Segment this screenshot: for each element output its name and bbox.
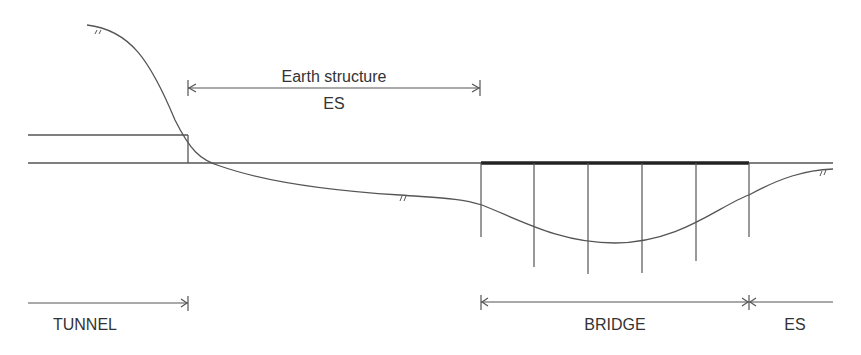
bridge-piers bbox=[481, 163, 749, 274]
tunnel-label: TUNNEL bbox=[53, 316, 117, 333]
road-profile-diagram: Earth structure ES TUNNEL BRIDGE ES bbox=[0, 0, 861, 355]
bridge-dimension bbox=[481, 295, 749, 310]
ground-hatch-icon bbox=[95, 30, 826, 201]
es-right-label: ES bbox=[784, 316, 805, 333]
earth-structure-title: Earth structure bbox=[282, 68, 387, 85]
ground-profile-line bbox=[87, 25, 833, 243]
bridge-label: BRIDGE bbox=[584, 316, 645, 333]
es-right-dimension bbox=[749, 298, 833, 306]
earth-structure-abbr: ES bbox=[323, 95, 344, 112]
tunnel-dimension bbox=[28, 296, 188, 311]
